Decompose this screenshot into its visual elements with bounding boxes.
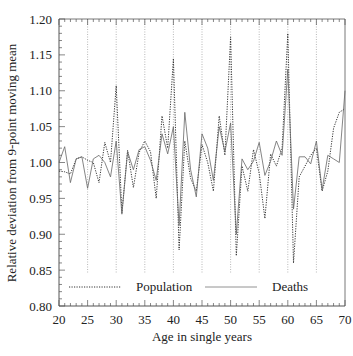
data-series bbox=[59, 33, 345, 263]
population-line bbox=[59, 33, 345, 263]
x-tick-label: 40 bbox=[167, 312, 180, 327]
x-axis-title: Age in single years bbox=[152, 329, 252, 344]
legend-population-label: Population bbox=[136, 279, 193, 294]
legend: Population Deaths bbox=[69, 279, 308, 294]
chart-svg: 0.800.850.900.951.001.051.101.151.20 202… bbox=[0, 0, 353, 356]
x-tick-label: 70 bbox=[339, 312, 352, 327]
x-tick-label: 55 bbox=[253, 312, 266, 327]
y-tick-label: 0.95 bbox=[29, 191, 52, 206]
x-tick-label: 35 bbox=[138, 312, 151, 327]
y-tick-label: 0.80 bbox=[29, 299, 52, 314]
y-tick-label: 1.20 bbox=[29, 12, 52, 27]
y-tick-label: 1.00 bbox=[29, 155, 52, 170]
vertical-gridlines bbox=[88, 19, 317, 273]
y-axis-title: Relative deviation from 9-point moving m… bbox=[4, 43, 19, 282]
y-tick-label: 1.15 bbox=[29, 47, 52, 62]
x-tick-label: 25 bbox=[81, 312, 94, 327]
x-tick-label: 30 bbox=[110, 312, 123, 327]
x-tick-label: 20 bbox=[53, 312, 66, 327]
y-tick-label: 0.90 bbox=[29, 227, 52, 242]
y-axis-ticks: 0.800.850.900.951.001.051.101.151.20 bbox=[29, 12, 65, 314]
x-tick-label: 45 bbox=[196, 312, 209, 327]
x-tick-label: 50 bbox=[224, 312, 237, 327]
x-tick-label: 65 bbox=[310, 312, 323, 327]
x-tick-label: 60 bbox=[281, 312, 294, 327]
y-tick-label: 1.10 bbox=[29, 83, 52, 98]
legend-deaths-label: Deaths bbox=[272, 279, 308, 294]
y-tick-label: 0.85 bbox=[29, 263, 52, 278]
y-tick-label: 1.05 bbox=[29, 119, 52, 134]
